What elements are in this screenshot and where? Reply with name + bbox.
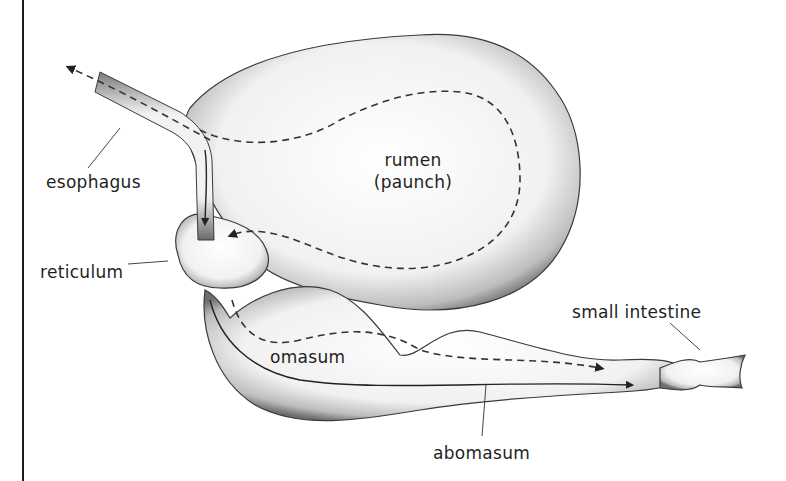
rumen-alt-label: (paunch) [368,172,458,192]
small-intestine-label: small intestine [572,302,701,322]
omasum-label: omasum [270,347,345,367]
reticulum-leader [128,261,168,264]
abomasum-label: abomasum [433,443,530,463]
reticulum-label: reticulum [40,262,123,282]
esophagus-leader [88,128,120,168]
esophagus-label: esophagus [46,172,141,192]
stomach-illustration [0,0,786,481]
rumen-label: rumen [368,150,458,170]
small-intestine-leader [670,323,700,350]
small-intestine-organ [660,355,745,390]
